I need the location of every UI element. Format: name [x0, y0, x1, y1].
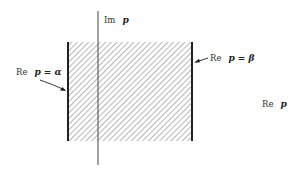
complex-plane-diagram: Im p Re p = α Re p = β Re p — [0, 0, 297, 173]
real-axis-label: Re p — [262, 93, 287, 110]
imaginary-axis-label: Im p — [104, 9, 129, 26]
left-boundary-label: Re p = α — [16, 61, 62, 78]
hatched-strip-region — [68, 42, 192, 141]
left-boundary-arrow — [40, 80, 66, 91]
right-boundary-arrow — [194, 58, 208, 63]
right-boundary-label: Re p = β — [210, 47, 255, 64]
